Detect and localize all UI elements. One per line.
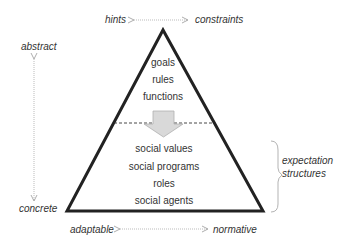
label-hints: hints [105, 14, 126, 25]
item-social-values: social values [135, 143, 192, 154]
label-constraints: constraints [195, 14, 243, 25]
brace-icon [271, 141, 282, 212]
item-rules: rules [152, 74, 174, 85]
label-concrete: concrete [19, 203, 57, 214]
label-structures: structures [282, 168, 326, 179]
label-adaptable: adaptable [70, 224, 114, 235]
item-functions: functions [143, 91, 183, 102]
item-roles: roles [153, 178, 175, 189]
item-social-programs: social programs [129, 161, 200, 172]
label-abstract: abstract [21, 41, 57, 52]
label-expectation: expectation [282, 155, 333, 166]
item-social-agents: social agents [135, 195, 193, 206]
label-normative: normative [213, 224, 257, 235]
down-arrow-icon [144, 111, 183, 137]
item-goals: goals [151, 57, 175, 68]
